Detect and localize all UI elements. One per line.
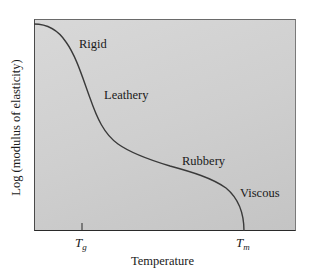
tick-tg: Tg <box>75 236 87 252</box>
modulus-curve <box>0 0 313 276</box>
label-rubbery: Rubbery <box>182 155 225 168</box>
tm-sub: m <box>243 242 250 252</box>
curve-line <box>34 24 244 231</box>
tick-tm: Tm <box>236 236 250 252</box>
x-axis-label: Temperature <box>0 254 313 269</box>
y-axis-label: Log (modulus of elasticity) <box>9 48 24 208</box>
chart: Rigid Leathery Rubbery Viscous Tg Tm Tem… <box>0 0 313 276</box>
label-viscous: Viscous <box>240 187 280 200</box>
label-leathery: Leathery <box>104 89 148 102</box>
label-rigid: Rigid <box>79 38 107 51</box>
tg-sub: g <box>82 242 87 252</box>
